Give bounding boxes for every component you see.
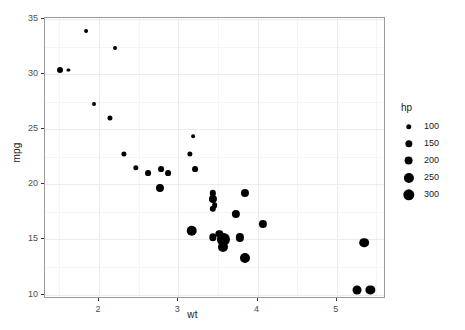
y-tick-label: 20 — [20, 179, 38, 188]
y-tickmark — [41, 238, 44, 239]
data-point — [240, 253, 250, 263]
y-tick-label: 25 — [20, 124, 38, 133]
data-point — [210, 205, 216, 211]
data-point — [352, 286, 361, 295]
legend-label: 150 — [418, 139, 439, 148]
data-point — [122, 151, 127, 156]
grid-line-minor-vertical — [297, 18, 298, 297]
data-point — [192, 166, 198, 172]
data-point — [92, 102, 96, 106]
y-tick-label: 10 — [20, 290, 38, 299]
grid-line-minor-horizontal — [45, 47, 384, 48]
legend-title: hp — [401, 103, 463, 113]
scatter-plot-figure: 101520253035 2345 wt mpg hp 100150200250… — [0, 0, 465, 330]
grid-line-major-vertical — [178, 18, 179, 297]
data-point — [57, 67, 63, 73]
x-axis-title: wt — [0, 309, 385, 320]
grid-line-major-horizontal — [45, 295, 384, 296]
y-tickmark — [41, 73, 44, 74]
grid-line-major-horizontal — [45, 19, 384, 20]
grid-line-minor-horizontal — [45, 267, 384, 268]
data-point — [366, 286, 375, 295]
legend-key-dot — [399, 118, 418, 135]
data-point — [232, 210, 240, 218]
data-point — [84, 29, 88, 33]
grid-line-minor-vertical — [218, 18, 219, 297]
y-tick-label: 15 — [20, 234, 38, 243]
data-point — [158, 166, 164, 172]
grid-line-minor-horizontal — [45, 212, 384, 213]
data-point — [359, 238, 369, 248]
legend-label: 250 — [418, 173, 439, 182]
grid-line-major-vertical — [258, 18, 259, 297]
y-tickmark — [41, 294, 44, 295]
grid-line-minor-vertical — [59, 18, 60, 297]
grid-line-major-vertical — [99, 18, 100, 297]
data-point — [156, 184, 164, 192]
grid-line-minor-vertical — [139, 18, 140, 297]
legend-label: 200 — [418, 156, 439, 165]
legend-key-dot — [399, 169, 418, 186]
legend-key-dot — [399, 186, 418, 203]
data-point — [165, 170, 171, 176]
legend-items: 100150200250300 — [399, 118, 463, 203]
data-point — [107, 116, 112, 121]
legend-item[interactable]: 250 — [399, 169, 463, 186]
legend-item[interactable]: 100 — [399, 118, 463, 135]
grid-line-minor-vertical — [376, 18, 377, 297]
legend: hp 100150200250300 — [399, 103, 463, 203]
legend-key-dot — [399, 135, 418, 152]
legend-item[interactable]: 300 — [399, 186, 463, 203]
data-point — [186, 225, 197, 236]
data-point — [113, 46, 117, 50]
legend-label: 100 — [418, 122, 439, 131]
y-tick-label: 30 — [20, 69, 38, 78]
grid-line-major-horizontal — [45, 184, 384, 185]
legend-item[interactable]: 200 — [399, 152, 463, 169]
grid-line-minor-horizontal — [45, 157, 384, 158]
data-point — [145, 170, 151, 176]
grid-line-major-horizontal — [45, 74, 384, 75]
y-tickmark — [41, 128, 44, 129]
legend-key-dot — [399, 152, 418, 169]
data-point — [241, 189, 249, 197]
data-point — [259, 220, 267, 228]
data-point — [67, 68, 70, 71]
y-tick-label: 35 — [20, 14, 38, 23]
grid-line-major-horizontal — [45, 129, 384, 130]
y-axis-tick-labels: 101520253035 — [20, 0, 38, 330]
legend-item[interactable]: 150 — [399, 135, 463, 152]
grid-line-major-vertical — [337, 18, 338, 297]
y-tickmark — [41, 183, 44, 184]
plot-panel — [44, 17, 385, 298]
y-axis-title: mpg — [11, 123, 22, 183]
legend-label: 300 — [418, 190, 439, 199]
data-point — [187, 151, 192, 156]
data-point — [191, 134, 195, 138]
y-tickmark — [41, 18, 44, 19]
grid-line-minor-horizontal — [45, 102, 384, 103]
